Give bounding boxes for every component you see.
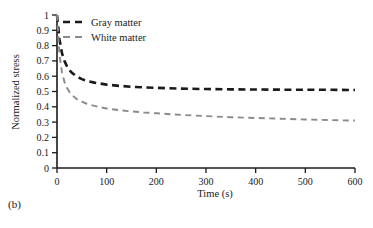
stress-relaxation-chart: 00.10.20.30.40.50.60.70.80.91 0100200300… <box>0 0 373 228</box>
x-tick-label: 100 <box>99 176 114 187</box>
y-tick-label: 0.3 <box>37 117 50 128</box>
y-tick-label: 0.4 <box>37 101 50 112</box>
x-axis-title: Time (s) <box>197 188 233 200</box>
panel-label: (b) <box>8 198 21 211</box>
y-tick-label: 0 <box>44 163 49 174</box>
x-axis-tick-labels: 0100200300400500600 <box>55 176 363 187</box>
y-tick-label: 0.2 <box>37 132 50 143</box>
x-tick-label: 0 <box>55 176 60 187</box>
y-tick-label: 0.9 <box>37 25 50 36</box>
y-tick-label: 0.7 <box>37 55 50 66</box>
chart-legend: Gray matter White matter <box>63 17 147 43</box>
x-tick-label: 200 <box>149 176 164 187</box>
x-tick-label: 600 <box>348 176 363 187</box>
data-series-group <box>57 15 355 121</box>
y-tick-label: 0.5 <box>37 86 50 97</box>
y-axis-title: Normalized stress <box>10 54 21 130</box>
y-axis-tick-labels: 00.10.20.30.40.50.60.70.80.91 <box>37 10 50 174</box>
y-tick-label: 0.1 <box>37 147 50 158</box>
figure-panel: 00.10.20.30.40.50.60.70.80.91 0100200300… <box>0 0 373 228</box>
y-tick-label: 0.8 <box>37 40 50 51</box>
legend-label-white-matter: White matter <box>91 32 147 43</box>
series-line-white-matter <box>57 15 355 121</box>
y-tick-label: 1 <box>44 10 49 21</box>
x-tick-label: 400 <box>248 176 263 187</box>
x-tick-label: 500 <box>298 176 313 187</box>
y-tick-label: 0.6 <box>37 71 50 82</box>
legend-label-gray-matter: Gray matter <box>91 17 142 28</box>
x-tick-label: 300 <box>199 176 214 187</box>
